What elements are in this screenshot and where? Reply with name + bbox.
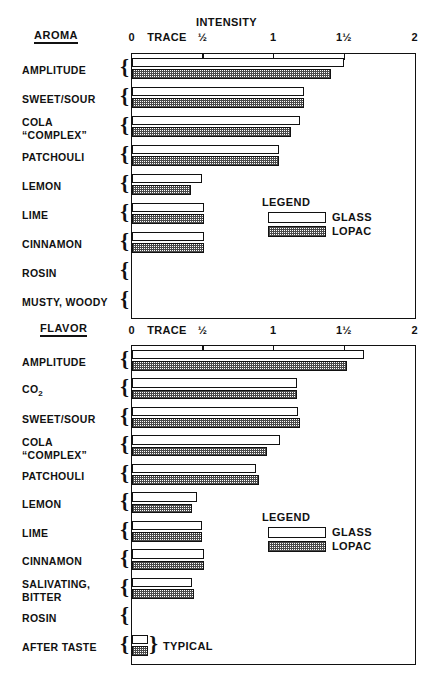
- x-tick-label-1: TRACE: [147, 31, 186, 43]
- bar-flavor-8-glass: [132, 578, 193, 588]
- legend-title: LEGEND: [262, 511, 310, 523]
- bar-aroma-3-glass: [132, 145, 279, 155]
- row-bracket-aroma-1: {: [120, 85, 129, 107]
- row-label-line1: SALIVATING,: [22, 578, 90, 591]
- bar-flavor-5-lopac: [132, 504, 193, 514]
- row-bracket-flavor-4: {: [120, 462, 129, 484]
- legend-swatch-glass: [268, 212, 326, 223]
- bar-aroma-0-lopac: [132, 69, 332, 79]
- section-title-aroma: AROMA: [34, 29, 78, 44]
- chart-page: INTENSITYAROMA0TRACE½11½2AMPLITUDE{SWEET…: [0, 0, 441, 693]
- row-label-line1: COLA: [22, 436, 87, 449]
- typical-bracket: }: [149, 633, 158, 655]
- x-tick-label-0: 0: [128, 31, 134, 43]
- bar-flavor-4-glass: [132, 464, 257, 474]
- row-bracket-flavor-1: {: [120, 376, 129, 398]
- row-bracket-flavor-2: {: [120, 405, 129, 427]
- bar-flavor-5-glass: [132, 492, 197, 502]
- row-bracket-aroma-7: {: [120, 259, 129, 281]
- row-bracket-flavor-10: {: [120, 633, 129, 655]
- x-tick-label-3: 1: [270, 324, 276, 336]
- row-bracket-flavor-3: {: [120, 433, 129, 455]
- bar-flavor-3-lopac: [132, 447, 268, 457]
- row-label-aroma-2: COLA“COMPLEX”: [22, 116, 87, 142]
- row-label-flavor-6: LIME: [22, 527, 48, 539]
- bar-aroma-3-lopac: [132, 156, 279, 166]
- row-label-line2: “COMPLEX”: [22, 449, 87, 462]
- x-tick-label-3: 1: [270, 31, 276, 43]
- section-title-flavor: FLAVOR: [40, 322, 87, 337]
- legend-flavor: LEGENDGLASSLOPAC: [262, 511, 382, 553]
- row-bracket-flavor-6: {: [120, 519, 129, 541]
- row-bracket-aroma-4: {: [120, 172, 129, 194]
- row-bracket-flavor-5: {: [120, 490, 129, 512]
- bar-aroma-2-lopac: [132, 127, 292, 137]
- row-bracket-aroma-6: {: [120, 230, 129, 252]
- x-tickmark-2: [344, 53, 345, 60]
- bar-aroma-0-glass: [132, 58, 344, 68]
- bar-flavor-7-glass: [132, 549, 204, 559]
- row-label-aroma-8: MUSTY, WOODY: [22, 296, 108, 308]
- bar-aroma-4-glass: [132, 174, 203, 184]
- bar-aroma-6-glass: [132, 232, 204, 242]
- row-bracket-flavor-0: {: [120, 348, 129, 370]
- bar-aroma-6-lopac: [132, 243, 204, 253]
- row-label-flavor-3: COLA“COMPLEX”: [22, 436, 87, 462]
- row-label-aroma-3: PATCHOULI: [22, 151, 84, 163]
- bar-flavor-0-lopac: [132, 361, 347, 371]
- legend-aroma: LEGENDGLASSLOPAC: [262, 196, 382, 238]
- row-label-subscript: 2: [38, 389, 43, 398]
- bar-flavor-6-glass: [132, 521, 203, 531]
- row-label-aroma-1: SWEET/SOUR: [22, 93, 96, 105]
- row-label-flavor-10: AFTER TASTE: [22, 641, 97, 653]
- row-label-aroma-7: ROSIN: [22, 267, 57, 279]
- bar-flavor-0-glass: [132, 350, 364, 360]
- row-bracket-aroma-8: {: [120, 288, 129, 310]
- row-bracket-flavor-9: {: [120, 604, 129, 626]
- bar-flavor-2-lopac: [132, 418, 300, 428]
- bar-flavor-2-glass: [132, 407, 299, 417]
- bar-flavor-3-glass: [132, 435, 281, 445]
- row-label-flavor-4: PATCHOULI: [22, 470, 84, 482]
- x-tick-label-1: TRACE: [147, 324, 186, 336]
- row-label-flavor-8: SALIVATING,BITTER: [22, 578, 90, 604]
- row-label-flavor-0: AMPLITUDE: [22, 356, 86, 368]
- row-bracket-aroma-3: {: [120, 143, 129, 165]
- legend-swatch-lopac: [268, 226, 326, 237]
- legend-title: LEGEND: [262, 196, 310, 208]
- bar-flavor-1-lopac: [132, 390, 298, 400]
- bar-flavor-10-glass: [132, 635, 149, 645]
- bar-flavor-6-lopac: [132, 532, 203, 542]
- legend-swatch-glass: [268, 527, 326, 538]
- bar-flavor-8-lopac: [132, 589, 194, 599]
- bar-aroma-1-glass: [132, 87, 305, 97]
- legend-label-lopac: LOPAC: [332, 540, 372, 552]
- typical-label: TYPICAL: [163, 640, 213, 652]
- row-label-aroma-4: LEMON: [22, 180, 61, 192]
- legend-swatch-lopac: [268, 541, 326, 552]
- bar-aroma-4-lopac: [132, 185, 191, 195]
- x-tick-label-4: 1½: [336, 324, 351, 336]
- legend-label-glass: GLASS: [332, 211, 372, 223]
- axis-title-intensity: INTENSITY: [196, 16, 257, 28]
- row-label-line1: COLA: [22, 116, 87, 129]
- row-label-flavor-1: CO2: [22, 383, 43, 398]
- bar-flavor-4-lopac: [132, 475, 259, 485]
- bar-flavor-10-lopac: [132, 646, 149, 656]
- x-tick-label-2: ½: [198, 324, 207, 336]
- row-bracket-flavor-7: {: [120, 547, 129, 569]
- row-bracket-aroma-5: {: [120, 201, 129, 223]
- row-label-aroma-0: AMPLITUDE: [22, 64, 86, 76]
- row-bracket-aroma-2: {: [120, 114, 129, 136]
- bar-flavor-7-lopac: [132, 561, 204, 571]
- bar-flavor-1-glass: [132, 378, 298, 388]
- bar-aroma-1-lopac: [132, 98, 305, 108]
- row-label-text: CO: [22, 383, 38, 395]
- legend-label-glass: GLASS: [332, 526, 372, 538]
- row-label-flavor-2: SWEET/SOUR: [22, 413, 96, 425]
- x-tick-label-4: 1½: [336, 31, 351, 43]
- row-label-line2: “COMPLEX”: [22, 129, 87, 142]
- x-tick-label-2: ½: [198, 31, 207, 43]
- bar-aroma-5-lopac: [132, 214, 204, 224]
- row-label-flavor-9: ROSIN: [22, 612, 57, 624]
